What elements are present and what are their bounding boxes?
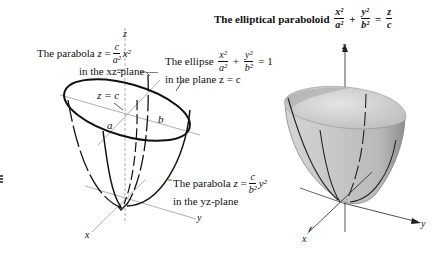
semi-axis-a-label: a [107,119,113,132]
yz-parabola-label: The parabola z = c b² y² in the yz-plane [173,172,267,208]
z-axis-label-left: z [123,28,127,39]
xz-parabola-label: The parabola z = c a² x² in the xz-plane… [37,42,158,78]
y-axis-label-left: y [197,212,201,223]
semi-axis-b-label: b [158,113,164,126]
x-axis-label-left: x [85,229,89,240]
x-axis-label-right: x [302,233,306,244]
y-axis-label-right: y [421,218,425,229]
plane-y-line [60,95,200,135]
right-paraboloid-surface [285,44,421,235]
ellipse-label: The ellipse x² a² + y² b² = 1 in the pla… [165,50,273,86]
z-axis-label-right: z [342,40,346,51]
figure-drawings [0,0,434,254]
plane-z-equals-c-label: z = c [97,89,119,102]
